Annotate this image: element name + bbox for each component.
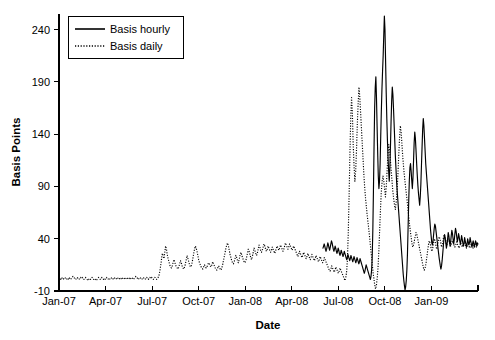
x-tick-label: Jul-07 (137, 295, 167, 307)
x-tick-label: Apr-08 (275, 295, 308, 307)
y-tick-label: 40 (38, 233, 50, 245)
basis-points-time-series-chart: -104090140190240 Jan-07Apr-07Jul-07Oct-0… (0, 0, 495, 340)
y-tick-label: 90 (38, 180, 50, 192)
y-tick-label: 140 (32, 128, 50, 140)
x-tick-label: Jan-08 (228, 295, 262, 307)
legend-label-basis-daily: Basis daily (110, 40, 163, 52)
x-tick-label: Oct-07 (182, 295, 215, 307)
y-axis-title: Basis Points (10, 117, 22, 186)
x-tick-label: Jan-09 (415, 295, 449, 307)
x-tick-label: Jan-07 (42, 295, 76, 307)
x-tick-label: Jul-08 (323, 295, 353, 307)
chart-legend: Basis hourly Basis daily (68, 16, 183, 58)
x-tick-label: Oct-08 (368, 295, 401, 307)
y-tick-label: 240 (32, 24, 50, 36)
x-axis-title: Date (256, 319, 281, 331)
legend-label-basis-hourly: Basis hourly (110, 23, 170, 35)
x-tick-label: Apr-07 (89, 295, 122, 307)
y-tick-label: 190 (32, 76, 50, 88)
chart-figure: -104090140190240 Jan-07Apr-07Jul-07Oct-0… (0, 0, 495, 340)
